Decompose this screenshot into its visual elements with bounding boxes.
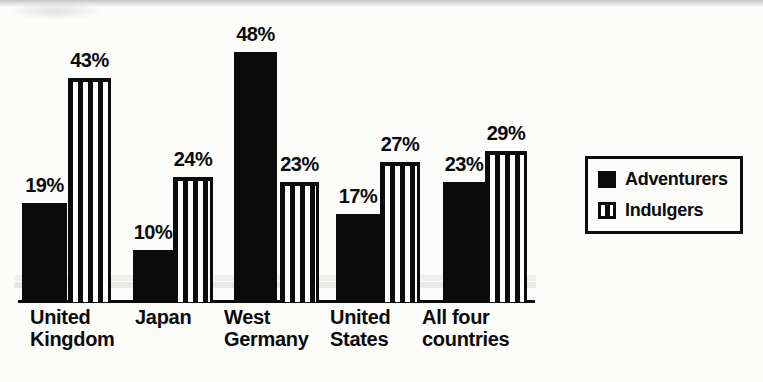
legend-label-indulgers: Indulgers [625,201,703,219]
bar-adventurers-japan [133,250,173,302]
value-label-adventurers-all-four-countries: 23% [445,153,484,175]
adventurers-swatch-icon [598,171,616,188]
bar-indulgers-japan [173,177,213,302]
indulgers-swatch-icon [598,202,616,219]
scanned-bar-chart: 19%43%UnitedKingdom10%24%Japan48%23%West… [0,0,763,382]
category-label-japan: Japan [135,306,191,328]
bar-indulgers-all-four-countries [485,151,527,302]
bar-adventurers-west-germany [234,52,277,302]
value-label-indulgers-united-states: 27% [381,133,420,155]
category-label-united-kingdom: UnitedKingdom [30,306,115,350]
value-label-indulgers-all-four-countries: 29% [487,122,526,144]
bar-indulgers-united-states [380,162,420,302]
value-label-adventurers-west-germany: 48% [236,23,275,45]
value-label-indulgers-united-kingdom: 43% [70,49,109,71]
bar-adventurers-united-states [336,214,380,302]
bar-chart-plot-area: 19%43%UnitedKingdom10%24%Japan48%23%West… [0,0,560,382]
bar-indulgers-united-kingdom [68,78,111,302]
value-label-indulgers-japan: 24% [174,148,213,170]
legend-item-adventurers: Adventurers [598,170,728,188]
value-label-adventurers-united-states: 17% [339,185,378,207]
category-label-west-germany: WestGermany [224,306,309,350]
bar-indulgers-west-germany [280,182,319,302]
value-label-adventurers-united-kingdom: 19% [25,174,64,196]
legend: Adventurers Indulgers [585,156,743,234]
legend-label-adventurers: Adventurers [625,170,728,188]
category-label-all-four-countries: All fourcountries [422,306,509,350]
value-label-adventurers-japan: 10% [134,221,173,243]
legend-item-indulgers: Indulgers [598,201,728,219]
bar-adventurers-united-kingdom [22,203,67,302]
category-label-united-states: UnitedStates [330,306,390,350]
value-label-indulgers-west-germany: 23% [280,153,319,175]
bar-adventurers-all-four-countries [443,182,485,302]
indulgers-swatch-stripe [605,205,610,216]
